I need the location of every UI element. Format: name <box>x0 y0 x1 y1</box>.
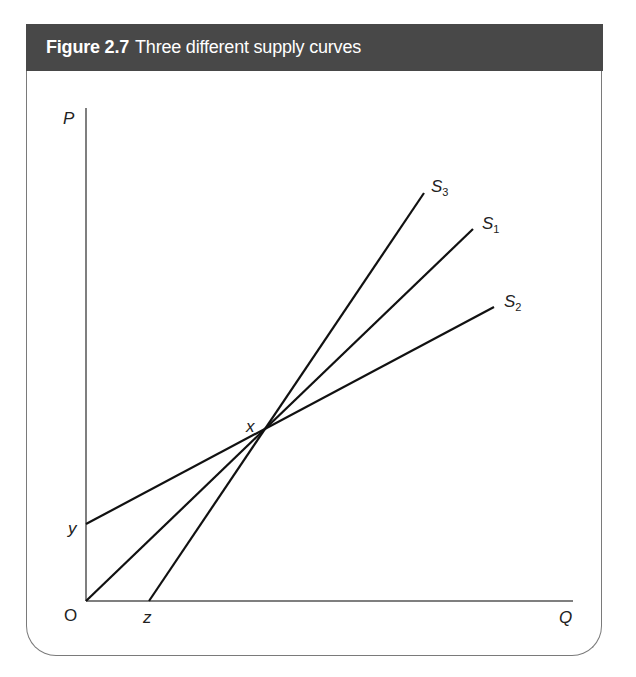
s2-label: S2 <box>504 292 521 313</box>
p-axis-label: P <box>63 109 75 128</box>
point-x-label: x <box>245 417 255 436</box>
supply-curves-chart: P Q O z y x S3 S1 S2 <box>0 0 636 677</box>
supply-curve-s2 <box>86 307 494 524</box>
point-y-label: y <box>67 519 78 538</box>
s3-label: S3 <box>431 177 448 198</box>
supply-curve-s1 <box>86 229 473 601</box>
origin-label: O <box>64 606 77 625</box>
q-axis-label: Q <box>559 608 572 627</box>
point-z-label: z <box>142 608 152 627</box>
supply-curve-s3 <box>149 193 424 601</box>
s1-label: S1 <box>482 214 499 235</box>
